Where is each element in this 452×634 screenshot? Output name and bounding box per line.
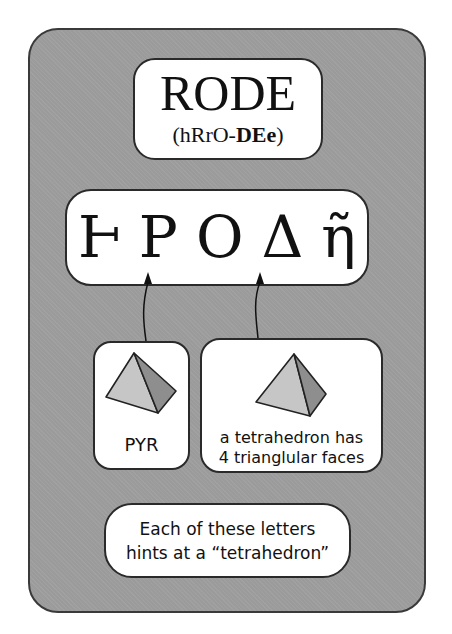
tetrahedron-icon	[102, 349, 182, 421]
hint-label-line1: a tetrahedron has	[202, 428, 381, 448]
footer-line-2: hints at a “tetrahedron”	[106, 541, 349, 565]
arrow-to-glyph-2	[144, 282, 148, 341]
footer-box: Each of these letters hints at a “tetrah…	[104, 503, 351, 578]
arrow-to-glyph-4	[256, 282, 260, 338]
footer-text: Each of these letters hints at a “tetrah…	[106, 517, 349, 565]
tetrahedron-icon	[252, 350, 332, 422]
hint-box-pyr: PYR	[93, 341, 190, 470]
footer-line-1: Each of these letters	[106, 517, 349, 541]
hint-box-tetrahedron: a tetrahedron has 4 trianglular faces	[200, 338, 383, 473]
hint-label-pyr: PYR	[95, 435, 188, 455]
hint-label-line2: 4 trianglular faces	[202, 448, 381, 468]
